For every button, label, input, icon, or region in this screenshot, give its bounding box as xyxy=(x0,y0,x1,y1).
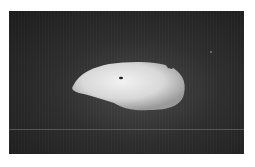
potato-tuber xyxy=(9,11,244,154)
photo xyxy=(9,11,244,154)
table-edge xyxy=(9,129,244,130)
speck xyxy=(210,51,212,53)
